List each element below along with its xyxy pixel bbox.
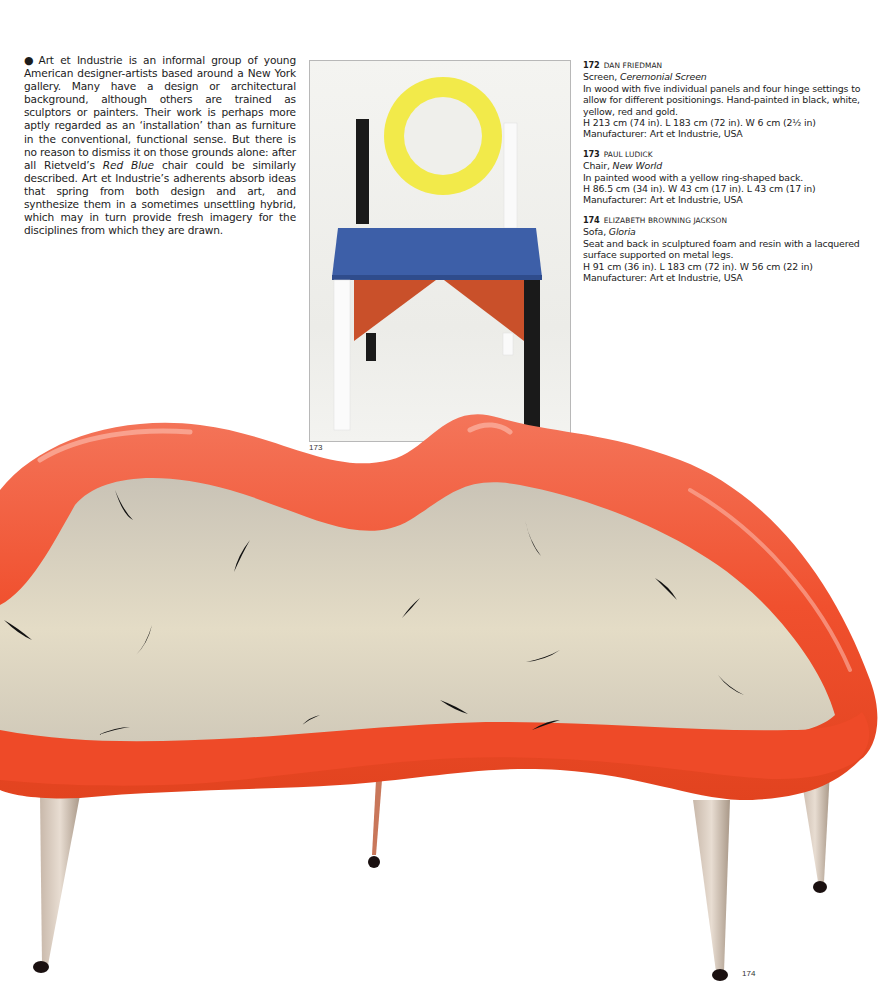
caption-type: Chair, [583,160,613,171]
caption-174: 174ELIZABETH BROWNING JACKSON Sofa, Glor… [583,214,883,283]
chair-photo [309,60,571,442]
caption-manufacturer: Manufacturer: Art et Industrie, USA [583,128,883,139]
caption-designer: DAN FRIEDMAN [604,61,663,70]
intro-italic-title: Red Blue [103,159,154,171]
intro-text-start: Art et Industrie is an informal group of… [24,54,296,171]
caption-173: 173PAUL LUDICK Chair, New World In paint… [583,148,883,206]
chair-illustration [310,61,570,441]
caption-type: Sofa, [583,226,609,237]
caption-number: 172 [583,60,600,70]
caption-dimensions: H 91 cm (36 in). L 183 cm (72 in). W 56 … [583,261,883,272]
caption-number: 174 [583,215,600,225]
caption-description: In wood with five individual panels and … [583,83,883,117]
bullet-icon: ● [24,54,37,67]
captions-column: 172DAN FRIEDMAN Screen, Ceremonial Scree… [583,59,883,291]
caption-title: Ceremonial Screen [620,71,707,82]
caption-title: Gloria [609,226,636,237]
caption-type: Screen, [583,71,620,82]
sofa-illustration [0,400,885,984]
figure-label-174: 174 [742,969,755,978]
caption-number: 173 [583,149,600,159]
caption-dimensions: H 213 cm (74 in). L 183 cm (72 in). W 6 … [583,117,883,128]
caption-dimensions: H 86.5 cm (34 in). W 43 cm (17 in). L 43… [583,183,883,194]
caption-title: New World [613,160,663,171]
caption-description: In painted wood with a yellow ring-shape… [583,172,883,183]
caption-designer: PAUL LUDICK [604,150,653,159]
caption-manufacturer: Manufacturer: Art et Industrie, USA [583,272,883,283]
caption-description: Seat and back in sculptured foam and res… [583,238,883,261]
caption-designer: ELIZABETH BROWNING JACKSON [604,216,728,225]
caption-manufacturer: Manufacturer: Art et Industrie, USA [583,194,883,205]
caption-172: 172DAN FRIEDMAN Screen, Ceremonial Scree… [583,59,883,140]
intro-paragraph: ●Art et Industrie is an informal group o… [24,54,296,237]
